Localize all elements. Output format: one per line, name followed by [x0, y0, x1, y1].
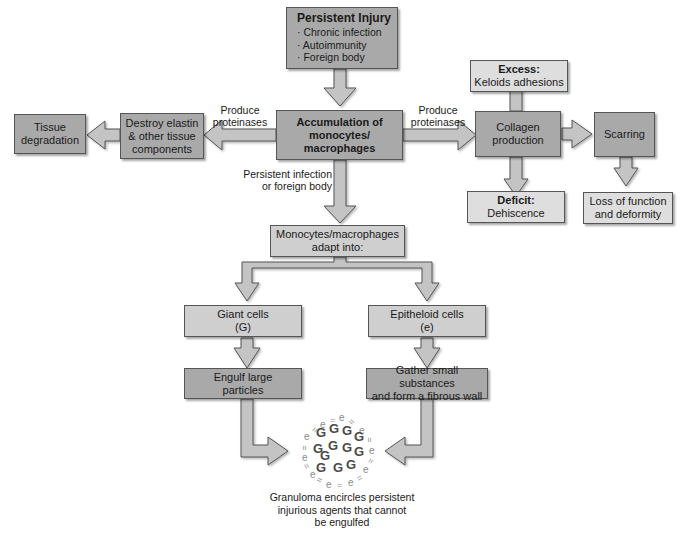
granuloma-caption: Granuloma encircles persistent injurious… — [232, 491, 452, 529]
injury-item-chronic-infection: · Chronic infection — [297, 26, 382, 39]
arrow-injury-to-accumulation — [324, 69, 356, 106]
excess-box: Excess: Keloids adhesions — [470, 60, 568, 92]
arrow-scarring-to-loss — [614, 157, 638, 186]
persistent-injury-title: Persistent Injury — [297, 12, 391, 25]
injury-item-foreign-body: · Foreign body — [297, 51, 365, 64]
arrow-destroy-to-degradation — [87, 121, 120, 149]
produce-proteinases-left-label: Produceproteinases — [207, 104, 273, 128]
giant-cells-box: Giant cells (G) — [184, 305, 302, 337]
destroy-elastin-box: Destroy elastin & other tissue component… — [120, 113, 204, 159]
produce-proteinases-right-label: Produceproteinases — [405, 104, 471, 128]
accumulation-line3: macrophages — [304, 142, 376, 155]
adapt-into-box: Monocytes/macrophages adapt into: — [270, 225, 405, 257]
deficit-box: Deficit: Dehiscence — [467, 191, 565, 223]
scarring-box: Scarring — [594, 112, 655, 157]
arrow-giant-to-engulf — [234, 338, 260, 368]
epitheloid-cells-box: Epitheloid cells (e) — [368, 305, 486, 337]
tissue-degradation-box: Tissue degradation — [14, 114, 86, 154]
loss-of-function-box: Loss of function and deformity — [583, 192, 673, 224]
granuloma-cluster: e = = e = e e = = e e = = e e = = e e = … — [296, 410, 396, 490]
gather-small-substances-box: Gather small substances and form a fibro… — [366, 368, 488, 399]
engulf-large-particles-box: Engulf large particles — [184, 368, 302, 399]
arrow-collagen-to-scarring — [562, 120, 592, 148]
arrow-adapt-to-split — [235, 257, 439, 301]
injury-item-autoimmunity: · Autoimmunity — [297, 39, 366, 52]
arrow-engulf-to-granuloma — [241, 399, 288, 465]
persistent-injury-box: Persistent Injury · Chronic infection · … — [286, 7, 398, 69]
accumulation-box: Accumulation of monocytes/ macrophages — [276, 110, 403, 160]
accumulation-line1: Accumulation of — [296, 116, 382, 129]
collagen-production-box: Collagen production — [475, 111, 561, 157]
accumulation-line2: monocytes/ — [309, 129, 370, 142]
persistent-infection-label: Persistent infection or foreign body — [232, 168, 332, 192]
